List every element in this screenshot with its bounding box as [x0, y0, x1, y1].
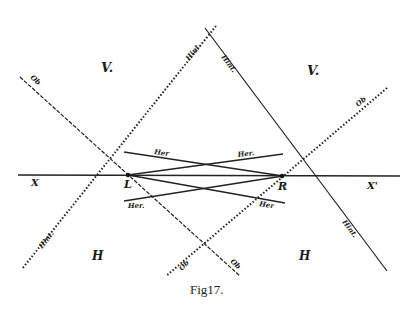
region-v-right: V. [307, 63, 319, 78]
point-label-r: R [277, 180, 287, 193]
ob-dotted-line-right [166, 88, 387, 276]
region-h-left: H [91, 249, 104, 263]
x-axis-line [18, 175, 400, 176]
region-h-right: H [298, 249, 311, 263]
region-v-left: V. [101, 60, 113, 75]
figure-caption: Fig17. [190, 282, 224, 297]
axis-label-x: X [30, 177, 40, 188]
label-hint-upper-right: Hint. [219, 52, 239, 74]
label-ob-lower-left: Ob [177, 258, 191, 272]
point-r-marker [280, 174, 284, 178]
label-hint-upper-left: Hint. [183, 41, 203, 63]
label-hint-lower-right: Hint. [340, 217, 360, 239]
perspective-diagram: V. V. H H X X' L R Ob Ob Ob Ob Hint. Hin… [0, 0, 417, 311]
label-her-lower-left: Her. [127, 201, 145, 210]
label-hint-lower-left: Hint. [36, 229, 56, 251]
axis-label-x-prime: X' [366, 180, 378, 191]
point-label-l: L [123, 178, 132, 191]
label-ob-lower-right: Ob [229, 257, 243, 271]
label-her-upper-right: Her. [236, 148, 255, 159]
ob-line-left [20, 77, 240, 276]
label-her-lower-right: Her [258, 199, 276, 211]
label-ob-upper-left: Ob [29, 73, 43, 87]
point-l-marker [126, 173, 130, 177]
